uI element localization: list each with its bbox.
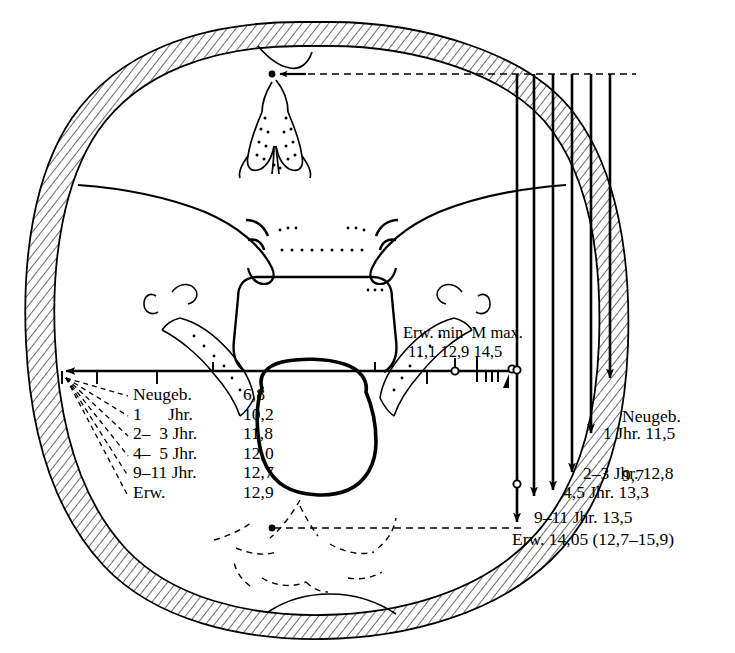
cribriform-foramina (256, 117, 297, 170)
circle-marker-icon (513, 366, 520, 373)
sagittal-label-9-11yr: 9–11 Jhr. 13,5 (534, 508, 633, 528)
circle-marker-icon (513, 480, 520, 487)
clivus-foramina (367, 289, 384, 292)
table-row-value: 10,2 (243, 405, 274, 425)
circle-marker-icon (451, 367, 458, 374)
occipital-dashed-contours (214, 500, 396, 592)
skull-base-figure: Erw. min M max. 11,1 12,9 14,5 Neugeb. 6… (0, 0, 735, 653)
crista-galli-apex-point (269, 71, 276, 78)
table-row: 9–11 Jhr. 12,7 (133, 463, 151, 483)
sella-turcica-outline (279, 227, 366, 252)
table-row-label: 2– 3 Jhr. (133, 424, 197, 444)
sagittal-label-adult: Erw. 14,05 (12,7–15,9) (512, 530, 674, 550)
transverse-diameter-table: Neugeb. 6,8 1 Jhr. 10,2 2– 3 Jhr. 11,8 4… (133, 385, 151, 503)
table-row: 4– 5 Jhr. 12,0 (133, 444, 151, 464)
table-row-label: 1 Jhr. (133, 405, 193, 425)
adult-scale-header: Erw. min M max. (403, 323, 523, 342)
vault-inner-ridge (258, 46, 312, 68)
table-row-value: 12,0 (243, 444, 274, 464)
foramen-magnum-outline (257, 359, 376, 495)
table-row-value: 11,8 (243, 424, 273, 444)
table-row-label: 9–11 Jhr. (133, 463, 197, 483)
skull-base-drawing (0, 0, 735, 653)
sphenoid-lesser-wings (78, 185, 566, 284)
petrous-ridge-dots (193, 335, 442, 392)
adult-scale-values: 11,1 12,9 14,5 (408, 342, 502, 361)
table-row-value: 12,7 (243, 463, 274, 483)
table-row-label: Erw. (133, 483, 165, 503)
table-row-value: 12,9 (243, 483, 274, 503)
table-row: 1 Jhr. 10,2 (133, 405, 151, 425)
table-row: Neugeb. 6,8 (133, 385, 151, 405)
sagittal-label-1yr: 1 Jhr. 11,5 (603, 424, 675, 444)
sagittal-label-2-3yr: 2–3 Jhr. 12,8 (583, 464, 673, 484)
table-row: Erw. 12,9 (133, 483, 151, 503)
table-row-value: 6,8 (243, 385, 265, 405)
table-row-label: Neugeb. (133, 385, 192, 405)
sagittal-label-4-5yr: 4,5 Jhr. 13,3 (563, 483, 649, 503)
table-row-label: 4– 5 Jhr. (133, 444, 197, 464)
crista-galli (239, 80, 310, 178)
anterior-clinoid-processes (246, 220, 398, 250)
table-row: 2– 3 Jhr. 11,8 (133, 424, 151, 444)
